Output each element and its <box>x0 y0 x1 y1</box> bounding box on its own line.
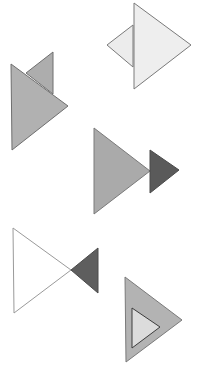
diagram-canvas <box>0 0 201 375</box>
